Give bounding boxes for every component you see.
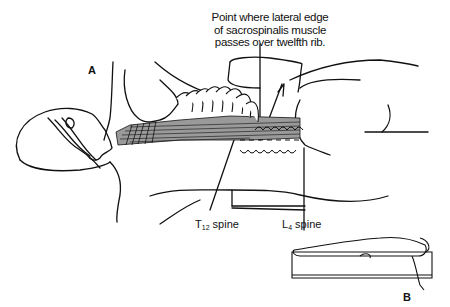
callout-line-3: passes over twelfth rib. (208, 36, 332, 49)
sacrospinalis-muscle (116, 116, 300, 145)
t12-pointer-line (210, 140, 234, 210)
callout-line-1: Point where lateral edge (208, 11, 332, 24)
t12-spine-label: T12 spine (195, 218, 239, 234)
l4-spine-label: L4 spine (282, 218, 321, 234)
callout-text: Point where lateral edge of sacrospinali… (208, 11, 332, 49)
panel-a-label: A (88, 64, 96, 76)
panel-b-drawing (292, 237, 432, 290)
back-contour (290, 60, 418, 80)
panel-b-label: B (403, 291, 411, 303)
medical-illustration: A B Point where lateral edge of sacrospi… (0, 0, 450, 307)
callout-line-2: of sacrospinalis muscle (208, 24, 332, 37)
head-outline (16, 108, 120, 222)
